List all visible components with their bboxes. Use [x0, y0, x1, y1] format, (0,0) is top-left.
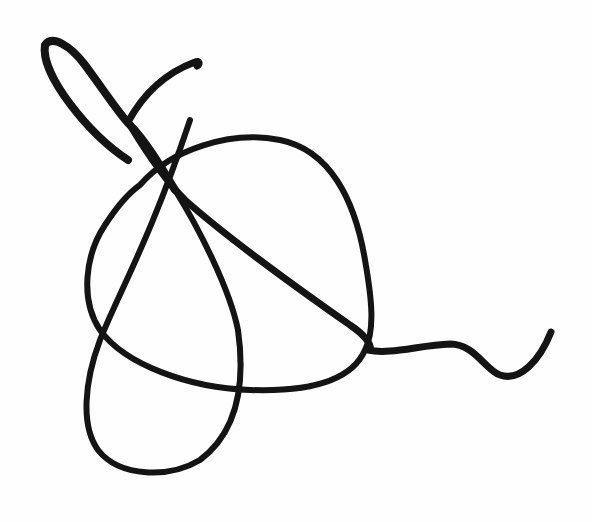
stroke-big-loop	[87, 137, 371, 390]
stroke-hook-top	[128, 61, 199, 122]
stroke-main-diagonal	[130, 125, 370, 350]
ink-scribble	[0, 0, 592, 522]
stroke-tail-wave	[368, 332, 551, 376]
drawing-canvas: Hand-drawn black ink scribble / signatur…	[0, 0, 592, 522]
